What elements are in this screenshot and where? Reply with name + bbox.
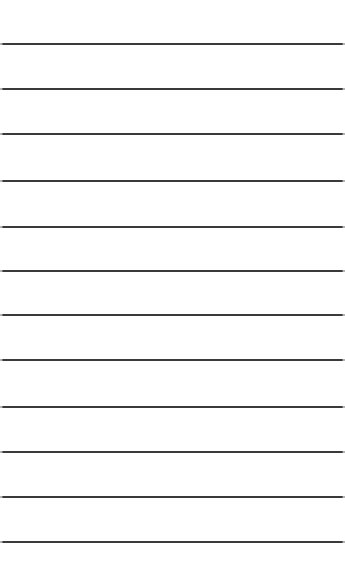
- ruled-line: [2, 314, 343, 316]
- ruled-line: [2, 180, 343, 182]
- ruled-line: [2, 541, 343, 543]
- ruled-line: [2, 496, 343, 498]
- ruled-line: [2, 43, 343, 45]
- ruled-line: [2, 88, 343, 90]
- ruled-line: [2, 359, 343, 361]
- ruled-line: [2, 451, 343, 453]
- ruled-line: [2, 406, 343, 408]
- ruled-line: [2, 226, 343, 228]
- ruled-line: [2, 133, 343, 135]
- ruled-line: [2, 270, 343, 272]
